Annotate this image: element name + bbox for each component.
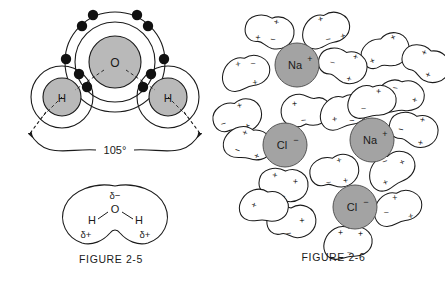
water-molecule: + − + [386, 108, 441, 151]
sodium-ion: Na + [275, 43, 319, 87]
svg-text:+: + [292, 99, 298, 109]
electron-dot [143, 21, 153, 31]
electron-dot [132, 10, 142, 20]
bond-angle-arc-right [134, 133, 200, 151]
figure-2-6-caption: FIGURE 2-6 [222, 251, 445, 263]
dipole-hydrogen-right-symbol: H [135, 214, 143, 226]
partial-charge-positive-left: δ+ [81, 229, 92, 240]
svg-text:−: − [301, 115, 307, 125]
water-molecule-layer: + + − + − + + + + [210, 10, 445, 261]
ion-hydration-diagram: + + − + − + + + + [222, 0, 445, 250]
electron-dot [74, 69, 84, 79]
water-molecule: + − + [300, 10, 352, 50]
dipole-hydrogen-left-symbol: H [88, 214, 96, 226]
svg-text:+: + [376, 86, 382, 96]
water-molecule: + − + [220, 54, 271, 93]
sodium-ion: Na + [350, 118, 394, 162]
sodium-ion-label: Na [363, 134, 378, 146]
chloride-ion: Cl − [263, 123, 307, 167]
hydrogen-left-symbol: H [58, 92, 66, 104]
dipole-oxygen-symbol: O [111, 203, 120, 215]
svg-text:+: + [235, 59, 241, 69]
sodium-ion-charge: + [382, 129, 387, 139]
partial-charge-negative: δ− [110, 190, 121, 201]
electron-dot [159, 54, 169, 64]
svg-text:+: + [299, 215, 305, 225]
svg-text:+: + [358, 228, 364, 238]
svg-text:−: − [250, 58, 256, 68]
figure-2-6-panel: + + − + − + + + + [222, 0, 445, 289]
water-molecule: + − [347, 84, 397, 121]
chloride-ion-label: Cl [277, 139, 287, 151]
water-molecule-diagram: O H H 105° [0, 0, 222, 250]
bond-angle-label: 105° [104, 144, 127, 156]
water-molecule: + + − [372, 189, 423, 228]
partial-charge-positive-right: δ+ [140, 229, 151, 240]
svg-text:+: + [252, 77, 258, 87]
sodium-ion-charge: + [307, 54, 312, 64]
chloride-ion-charge: − [293, 135, 298, 145]
chloride-ion-label: Cl [347, 201, 357, 213]
chloride-ion: Cl − [333, 185, 377, 229]
svg-text:+: + [272, 170, 278, 180]
chloride-ion-charge: − [363, 197, 368, 207]
svg-text:−: − [286, 228, 292, 238]
svg-text:+: + [332, 114, 338, 124]
svg-text:+: + [338, 227, 344, 237]
svg-text:+: + [292, 176, 298, 186]
electron-dot [146, 69, 156, 79]
svg-text:+: + [392, 192, 398, 202]
electron-dot [61, 54, 71, 64]
svg-text:−: − [383, 207, 389, 217]
water-dipole-blob: O H H δ− δ+ δ+ [63, 185, 168, 244]
figure-sheet: O H H 105° [0, 0, 445, 289]
bond-angle-arc-left [30, 133, 96, 151]
electron-dot [88, 10, 98, 20]
svg-text:−: − [361, 103, 367, 113]
electron-dot [138, 82, 148, 92]
figure-2-5-panel: O H H 105° [0, 0, 222, 289]
electron-dot [82, 82, 92, 92]
oxygen-symbol: O [110, 56, 119, 70]
figure-2-5-caption: FIGURE 2-5 [0, 253, 222, 265]
sodium-ion-label: Na [288, 59, 303, 71]
svg-text:+: + [408, 211, 414, 221]
hydrogen-right-symbol: H [164, 92, 172, 104]
electron-dot [77, 21, 87, 31]
